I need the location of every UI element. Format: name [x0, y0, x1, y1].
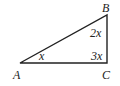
angle-label-b: 2x	[90, 26, 102, 40]
vertex-label-a: A	[12, 68, 21, 82]
triangle-diagram: B A C 2x 3x x	[0, 0, 120, 86]
vertex-label-b: B	[102, 1, 110, 15]
vertex-label-c: C	[102, 68, 111, 82]
angle-label-a: x	[38, 49, 45, 63]
angle-label-c: 3x	[90, 49, 103, 63]
